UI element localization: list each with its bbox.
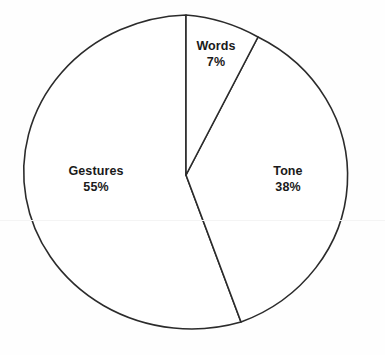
slice-label-words: Words 7% <box>168 38 264 70</box>
slice-label-tone-name: Tone <box>243 163 333 179</box>
slice-label-gestures-value: 55% <box>44 179 148 195</box>
slice-label-words-name: Words <box>168 38 264 54</box>
pie-chart-figure: Words 7% Gestures 55% Tone 38% <box>0 0 385 355</box>
slice-label-gestures: Gestures 55% <box>44 163 148 195</box>
slice-label-tone: Tone 38% <box>243 163 333 195</box>
slice-label-tone-value: 38% <box>243 179 333 195</box>
slice-label-gestures-name: Gestures <box>44 163 148 179</box>
slice-label-words-value: 7% <box>168 54 264 70</box>
